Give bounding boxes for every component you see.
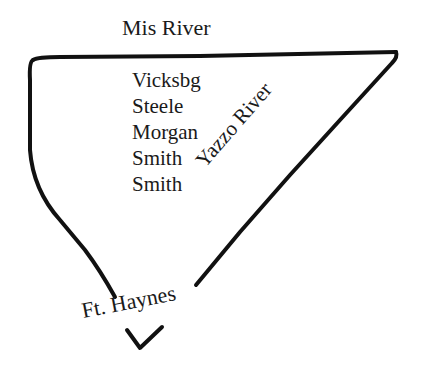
place-list: Vicksbg Steele Morgan Smith Smith	[132, 67, 201, 197]
map-outline	[0, 0, 426, 369]
place-smith-2: Smith	[132, 171, 201, 197]
place-vicksbg: Vicksbg	[132, 67, 201, 93]
place-steele: Steele	[132, 93, 201, 119]
top-edge-mis-river	[33, 52, 396, 60]
left-edge	[30, 60, 115, 297]
place-morgan: Morgan	[132, 119, 201, 145]
hand-drawn-map: Mis River Vicksbg Steele Morgan Smith Sm…	[0, 0, 426, 369]
yazzo-river-edge	[196, 52, 397, 285]
place-smith-1: Smith	[132, 145, 201, 171]
fort-point-v	[127, 327, 162, 348]
mis-river-label: Mis River	[122, 17, 211, 39]
